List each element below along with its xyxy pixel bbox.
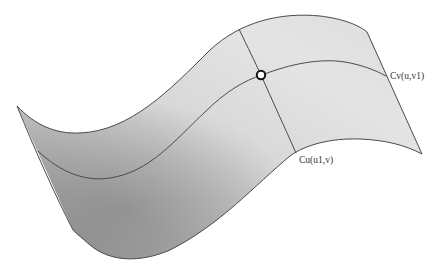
surface-diagram <box>0 0 438 273</box>
cv-curve-label: Cv(u,v1) <box>390 72 424 82</box>
surface-shading <box>17 15 422 259</box>
intersection-point-marker <box>257 71 265 79</box>
cu-curve-label: Cu(u1,v) <box>299 156 333 166</box>
